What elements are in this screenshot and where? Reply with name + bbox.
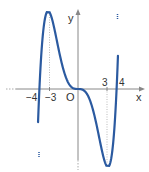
tick-label-3: 3 — [102, 77, 108, 88]
tick-label-minus-4: −4 — [26, 92, 38, 103]
tick-label-4: 4 — [119, 77, 125, 88]
function-graph: y x O −4 −3 3 4 — [0, 0, 149, 172]
origin-label: O — [66, 91, 75, 103]
y-axis-arrow-icon — [76, 9, 81, 15]
x-axis-label: x — [136, 91, 142, 103]
y-axis-label: y — [68, 12, 74, 24]
tick-label-minus-3: −3 — [45, 92, 57, 103]
